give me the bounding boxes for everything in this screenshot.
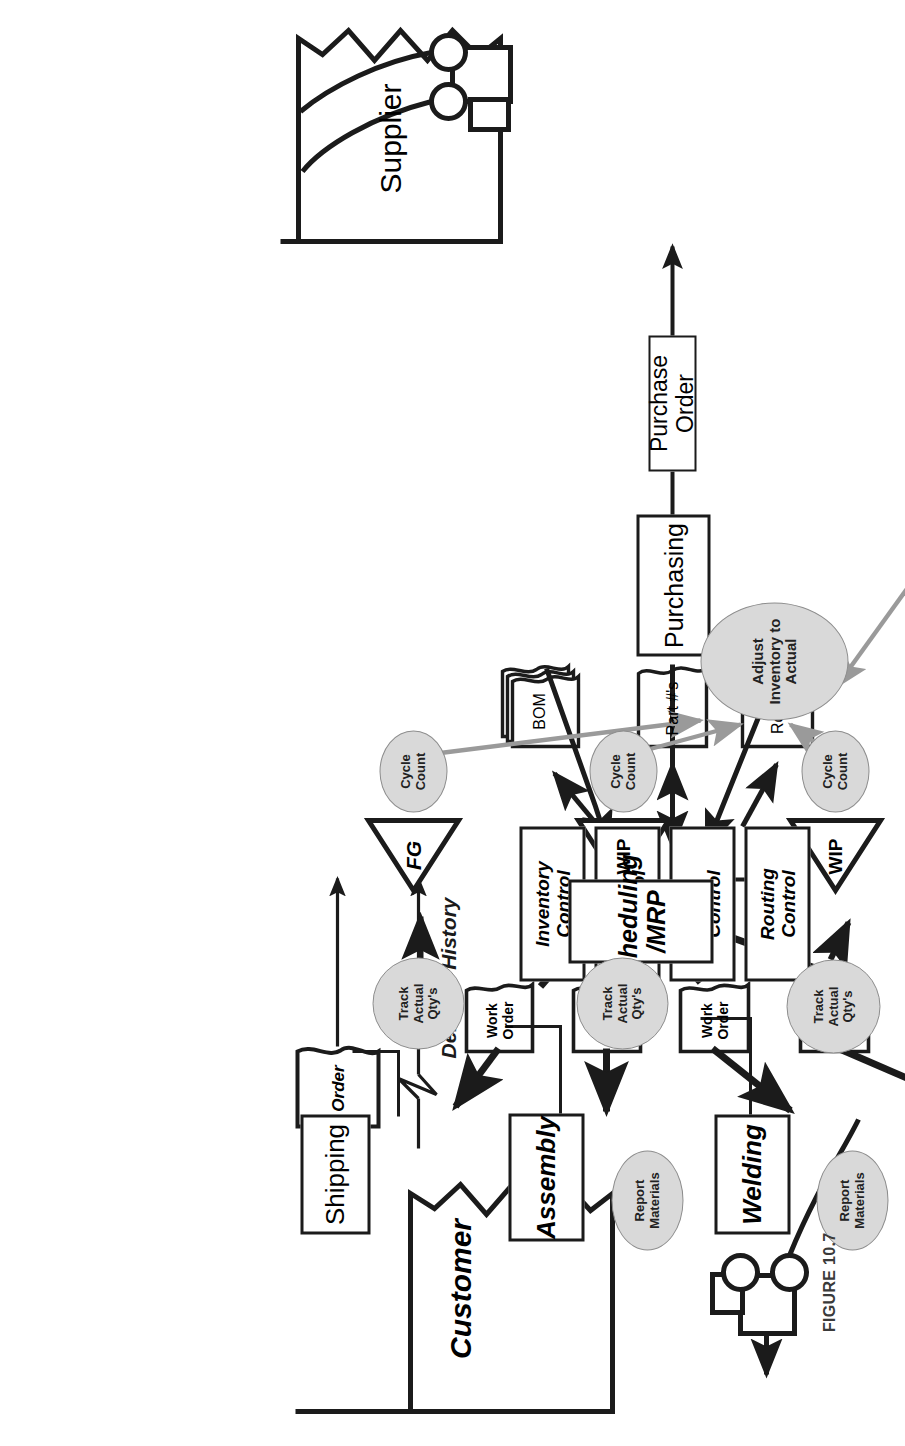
entity-customer: Customer [430, 1191, 490, 1386]
work-order-3-line1: Work [699, 1003, 715, 1038]
data-store-bom-label: BOM [530, 693, 548, 729]
track-shipping-line1: Track [396, 986, 411, 1020]
control-box-routing[interactable]: Routing Control [744, 826, 810, 981]
work-order-1-line2: Order [500, 1001, 516, 1039]
report-materials-assembly[interactable]: Report Materials [611, 1150, 683, 1250]
control-inventory-line1: Inventory [531, 861, 552, 947]
adjust-inventory-line3: Actual [782, 638, 799, 684]
control-routing-line2: Control [777, 870, 798, 938]
adjust-inventory-line2: Inventory to [766, 618, 783, 704]
track-actual-qty-welding[interactable]: Track Actual Qty's [786, 959, 880, 1053]
flow-purchase-order: Purchase Order [648, 335, 696, 471]
wip-assembly-triangle-label: WIP [612, 838, 633, 874]
report-materials-welding-line2: Materials [852, 1172, 867, 1228]
report-materials-assembly-line2: Materials [647, 1172, 662, 1228]
process-assembly[interactable]: Assembly [508, 1113, 584, 1241]
cycle-count-wip-welding[interactable]: Cycle Count [801, 730, 869, 812]
data-store-bom: BOM [522, 676, 556, 746]
document-work-order-1: Work Order [478, 989, 522, 1051]
report-materials-assembly-line1: Report [632, 1179, 647, 1221]
track-actual-qty-assembly[interactable]: Track Actual Qty's [576, 957, 668, 1049]
process-scheduling-mrp[interactable]: Scheduling /MRP [568, 879, 713, 963]
cycle-count-fg[interactable]: Cycle Count [379, 730, 447, 812]
work-order-3-line2: Order [715, 1001, 731, 1039]
diagram-canvas: Customer Supplier Order Demand History I… [0, 0, 905, 1446]
cycle-count-fg-line2: Count [413, 752, 428, 790]
shipping-label: Shipping [320, 1123, 349, 1224]
entity-supplier: Supplier [360, 48, 420, 228]
data-store-part-label: Part #'s [663, 681, 681, 735]
cycle-count-wip1-line1: Cycle [608, 754, 623, 789]
figure-caption: FIGURE 10.7 [821, 1233, 839, 1332]
cycle-count-wip2-line2: Count [835, 752, 850, 790]
process-welding[interactable]: Welding [714, 1114, 790, 1234]
purchase-order-label: Purchase Order [646, 337, 698, 469]
purchasing-label: Purchasing [659, 522, 687, 647]
figure-caption-text: FIGURE 10.7 [821, 1233, 838, 1332]
document-work-order-3: Work Order [693, 989, 737, 1051]
track-shipping-line3: Qty's [425, 987, 440, 1019]
track-assembly-line2: Actual [615, 983, 630, 1023]
track-welding-line3: Qty's [840, 990, 855, 1022]
process-purchasing[interactable]: Purchasing [636, 514, 710, 656]
cycle-count-wip2-line1: Cycle [820, 754, 835, 789]
entity-customer-label: Customer [443, 1218, 477, 1358]
track-welding-line1: Track [811, 989, 826, 1023]
figure-page: Customer Supplier Order Demand History I… [0, 0, 905, 1446]
wip-welding-triangle-label: WIP [824, 838, 845, 874]
track-actual-qty-shipping[interactable]: Track Actual Qty's [372, 957, 464, 1049]
inventory-triangle-wip-welding: WIP [819, 828, 851, 884]
document-order-label: Order [328, 1065, 347, 1111]
control-routing-line1: Routing [756, 868, 777, 940]
assembly-label: Assembly [531, 1116, 560, 1239]
report-materials-welding-line1: Report [837, 1179, 852, 1221]
cycle-count-wip1-line2: Count [623, 752, 638, 790]
process-shipping[interactable]: Shipping [300, 1114, 370, 1234]
data-store-part: Part #'s [655, 670, 689, 746]
adjust-inventory-to-actual[interactable]: Adjust Inventory to Actual [700, 602, 848, 720]
track-welding-line2: Actual [826, 986, 841, 1026]
entity-supplier-label: Supplier [373, 83, 407, 193]
work-order-1-line1: Work [484, 1003, 500, 1038]
scheduling-mrp-line2: /MRP [641, 890, 669, 953]
inventory-triangle-fg: FG [396, 830, 430, 880]
inventory-triangle-wip-assembly: WIP [607, 828, 639, 884]
track-assembly-line1: Track [600, 986, 615, 1020]
cycle-count-fg-line1: Cycle [398, 754, 413, 789]
track-assembly-line3: Qty's [629, 987, 644, 1019]
welding-label: Welding [737, 1124, 766, 1225]
adjust-inventory-line1: Adjust [749, 638, 766, 685]
track-shipping-line2: Actual [411, 983, 426, 1023]
cycle-count-wip-assembly[interactable]: Cycle Count [589, 730, 657, 812]
fg-triangle-label: FG [401, 840, 425, 869]
